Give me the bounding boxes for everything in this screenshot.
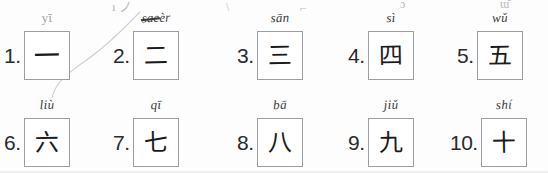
character-box: 八 — [257, 118, 303, 167]
top-cutoff-mark: ı ノ — [112, 0, 132, 15]
answer-cell: wǔ五 — [477, 31, 523, 80]
numeral-item: 10.shí十 — [450, 118, 527, 167]
numeral-item: 5.wǔ五 — [457, 31, 523, 80]
answer-cell: yī一 — [24, 31, 70, 80]
answer-cell: shí十 — [481, 118, 527, 167]
handwritten-character: 九 — [378, 130, 402, 154]
item-number: 3. — [237, 45, 254, 66]
handwritten-character: 六 — [34, 130, 58, 154]
pinyin-crossed-out: sae — [141, 10, 159, 27]
character-box: 四 — [368, 31, 414, 80]
handwritten-character: 三 — [267, 43, 291, 67]
character-box: 一 — [24, 31, 70, 80]
pinyin-annotation: bā — [272, 97, 286, 113]
pinyin-annotation: shí — [495, 97, 512, 114]
answer-cell: jiǔ九 — [368, 118, 414, 167]
top-cutoff-mark: ɔ̀ — [400, 0, 405, 12]
numeral-item: 7.qī七 — [113, 118, 179, 167]
numeral-item: 2.saeèr二 — [113, 31, 179, 80]
character-box: 九 — [368, 118, 414, 167]
item-number: 9. — [348, 132, 365, 153]
item-number: 4. — [348, 45, 365, 66]
item-number: 5. — [457, 45, 474, 66]
numeral-item: 3.sān三 — [237, 31, 303, 80]
answer-cell: sān三 — [257, 31, 303, 80]
character-box: 二 — [133, 31, 179, 80]
pinyin-annotation: wǔ — [491, 10, 507, 27]
handwritten-character: 二 — [143, 43, 167, 67]
handwritten-character: 七 — [143, 130, 167, 154]
handwritten-character: 一 — [33, 42, 59, 68]
numeral-item: 4.sì四 — [348, 31, 414, 80]
answer-cell: qī七 — [133, 118, 179, 167]
top-cutoff-mark: \ — [226, 0, 229, 15]
item-number: 8. — [237, 132, 254, 153]
handwritten-character: 四 — [378, 43, 402, 67]
numeral-item: 6.liù六 — [4, 118, 70, 167]
handwritten-character: 十 — [491, 130, 515, 154]
answer-cell: sì四 — [368, 31, 414, 80]
handwritten-character: 五 — [487, 43, 511, 67]
answer-cell: saeèr二 — [133, 31, 179, 80]
pinyin-annotation: yī — [41, 10, 52, 26]
pinyin-annotation: qī — [150, 97, 161, 113]
item-number: 7. — [113, 132, 130, 153]
numeral-item: 9.jiǔ九 — [348, 118, 414, 167]
worksheet-page: ı ノ\⌐ɔ̀ɯ̆ 1.yī一2.saeèr二3.sān三4.sì四5.wǔ五6… — [0, 0, 548, 173]
character-box: 五 — [477, 31, 523, 80]
item-number: 1. — [4, 45, 21, 66]
handwritten-character: 八 — [267, 130, 291, 154]
pinyin-annotation: liù — [39, 97, 54, 114]
pinyin-annotation: saeèr — [141, 10, 170, 27]
numeral-item: 8.bā八 — [237, 118, 303, 167]
answer-cell: bā八 — [257, 118, 303, 167]
character-box: 七 — [133, 118, 179, 167]
numeral-item: 1.yī一 — [4, 31, 70, 80]
item-number: 10. — [450, 132, 478, 153]
pinyin-annotation: jiǔ — [383, 97, 398, 114]
pinyin-annotation: sì — [386, 10, 396, 26]
answer-cell: liù六 — [24, 118, 70, 167]
pinyin-annotation: sān — [270, 10, 290, 27]
character-box: 十 — [481, 118, 527, 167]
character-box: 六 — [24, 118, 70, 167]
item-number: 2. — [113, 45, 130, 66]
item-number: 6. — [4, 132, 21, 153]
character-box: 三 — [257, 31, 303, 80]
scan-bottom-edge — [0, 170, 548, 173]
top-cutoff-mark: ⌐ — [300, 1, 307, 16]
